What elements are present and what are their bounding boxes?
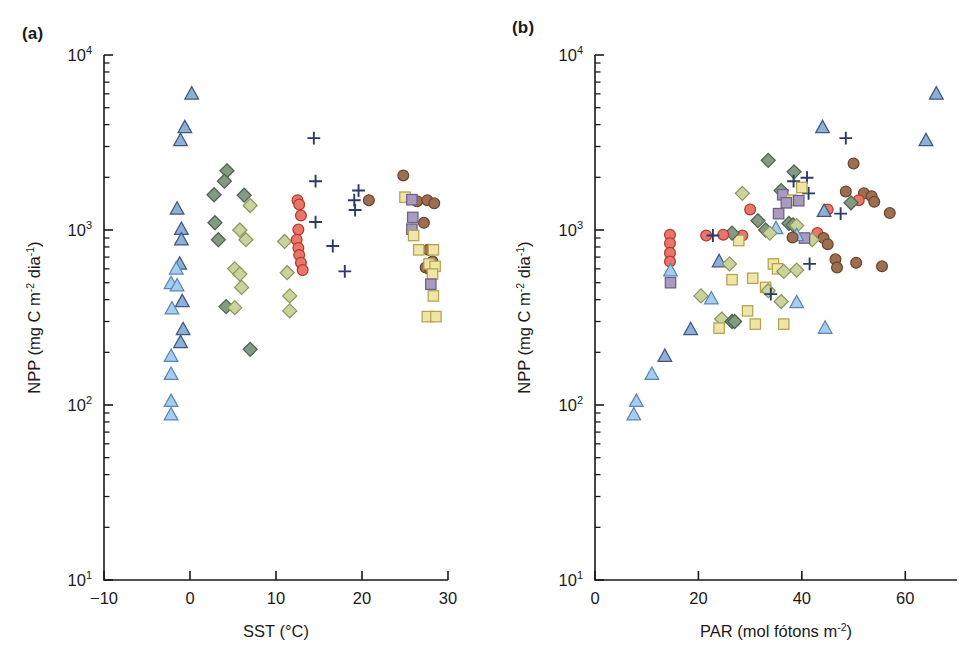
yellow-square xyxy=(414,245,424,255)
steel-blue-triangle xyxy=(658,349,672,361)
data-points xyxy=(164,87,441,420)
light-blue-triangle xyxy=(164,367,178,379)
y-tick-label: 101 xyxy=(559,569,583,589)
x-tick-label: 0 xyxy=(590,589,599,607)
x-tick-label: −10 xyxy=(90,589,118,607)
yellow-square xyxy=(797,182,807,192)
dark-green-diamond xyxy=(243,342,257,356)
red-circle xyxy=(718,229,729,240)
brown-circle xyxy=(877,261,888,272)
y-tick-label: 102 xyxy=(68,394,92,414)
dark-green-diamond xyxy=(211,233,225,247)
purple-square xyxy=(407,194,417,204)
steel-blue-triangle xyxy=(816,120,830,132)
steel-blue-triangle xyxy=(178,120,192,132)
x-tick-label: 30 xyxy=(439,589,457,607)
x-tick-label: 10 xyxy=(267,589,285,607)
steel-blue-triangle xyxy=(176,322,190,334)
axis-frame xyxy=(595,55,957,580)
y-tick-label: 104 xyxy=(68,44,92,64)
yellow-square xyxy=(779,319,789,329)
light-blue-triangle xyxy=(164,349,178,361)
olive-diamond xyxy=(283,289,297,303)
light-blue-triangle xyxy=(645,367,659,379)
brown-circle xyxy=(848,158,859,169)
y-tick-label: 103 xyxy=(559,219,583,239)
purple-square xyxy=(426,279,436,289)
y-tick-label: 101 xyxy=(68,569,92,589)
navy-plus xyxy=(307,132,320,145)
red-circle xyxy=(745,204,756,215)
purple-square xyxy=(665,277,675,287)
yellow-square xyxy=(428,245,438,255)
x-tick-label: 0 xyxy=(185,589,194,607)
purple-square xyxy=(408,212,418,222)
navy-plus xyxy=(834,207,847,220)
red-circle xyxy=(294,199,305,210)
steel-blue-triangle xyxy=(175,294,189,306)
dark-green-diamond xyxy=(761,153,775,167)
y-tick-label: 104 xyxy=(559,44,583,64)
navy-plus xyxy=(839,132,852,145)
red-circle xyxy=(297,265,308,276)
red-circle xyxy=(296,210,307,221)
dark-green-diamond xyxy=(208,216,222,230)
navy-plus xyxy=(338,265,351,278)
panel-a-plot: 101102103104−100102030SST (°C)NPP (mg C … xyxy=(0,0,490,645)
y-axis-title: NPP (mg C m-2 dia-1) xyxy=(514,241,533,393)
purple-square xyxy=(773,208,783,218)
navy-plus xyxy=(326,240,339,253)
steel-blue-triangle xyxy=(684,322,698,334)
steel-blue-triangle xyxy=(170,202,184,214)
olive-diamond xyxy=(235,280,249,294)
purple-square xyxy=(781,198,791,208)
brown-circle xyxy=(398,170,409,181)
navy-plus xyxy=(349,204,362,217)
yellow-square xyxy=(742,306,752,316)
brown-circle xyxy=(832,262,843,273)
dark-green-diamond xyxy=(207,188,221,202)
light-blue-triangle xyxy=(627,408,641,420)
brown-circle xyxy=(851,257,862,268)
panel-b: (b) 1011021031040204060PAR (mol fótons m… xyxy=(490,0,977,645)
purple-square xyxy=(794,196,804,206)
x-axis-title: PAR (mol fótons m-2) xyxy=(700,621,852,640)
olive-diamond xyxy=(280,266,294,280)
red-circle xyxy=(293,224,304,235)
yellow-square xyxy=(714,323,724,333)
light-blue-triangle xyxy=(818,321,832,333)
olive-diamond xyxy=(278,234,292,248)
brown-circle xyxy=(869,196,880,207)
steel-blue-triangle xyxy=(174,335,188,347)
x-tick-label: 20 xyxy=(689,589,707,607)
brown-circle xyxy=(419,217,430,228)
brown-circle xyxy=(884,208,895,219)
steel-blue-triangle xyxy=(185,87,199,99)
brown-circle xyxy=(840,186,851,197)
yellow-square xyxy=(431,311,441,321)
steel-blue-triangle xyxy=(929,87,943,99)
brown-circle xyxy=(429,198,440,209)
figure-root: (a) 101102103104−100102030SST (°C)NPP (m… xyxy=(0,0,977,645)
panel-a: (a) 101102103104−100102030SST (°C)NPP (m… xyxy=(0,0,490,645)
x-tick-label: 60 xyxy=(896,589,914,607)
light-blue-triangle xyxy=(164,408,178,420)
yellow-square xyxy=(427,269,437,279)
olive-diamond xyxy=(790,263,804,277)
light-blue-triangle xyxy=(164,394,178,406)
yellow-square xyxy=(428,291,438,301)
navy-plus xyxy=(309,175,322,188)
steel-blue-triangle xyxy=(174,133,188,145)
x-axis-title: SST (°C) xyxy=(243,622,309,640)
x-tick-label: 40 xyxy=(793,589,811,607)
light-blue-triangle xyxy=(790,295,804,307)
steel-blue-triangle xyxy=(919,133,933,145)
data-points xyxy=(627,87,943,420)
y-axis-title: NPP (mg C m-2 dia-1) xyxy=(24,241,43,393)
navy-plus xyxy=(309,216,322,229)
olive-diamond xyxy=(722,257,736,271)
yellow-square xyxy=(750,319,760,329)
x-tick-label: 20 xyxy=(353,589,371,607)
panel-b-plot: 1011021031040204060PAR (mol fótons m-2)N… xyxy=(490,0,977,645)
olive-diamond xyxy=(735,186,749,200)
